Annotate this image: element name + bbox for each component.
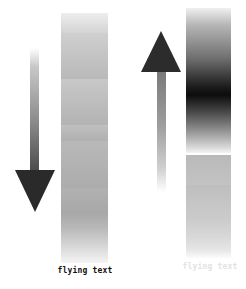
right-flying-text-label: flying text: [181, 262, 239, 271]
arrow-down-icon: [15, 170, 55, 212]
left-flying-text-label: flying text: [55, 266, 115, 275]
right-banded-column: [186, 155, 231, 258]
left-gradient-column: [61, 13, 108, 263]
right-dark-gradient-column: [186, 8, 231, 153]
arrow-down-icon-shaft: [30, 48, 39, 172]
arrow-up-icon: [141, 31, 181, 72]
arrow-up-icon-shaft: [157, 72, 166, 192]
